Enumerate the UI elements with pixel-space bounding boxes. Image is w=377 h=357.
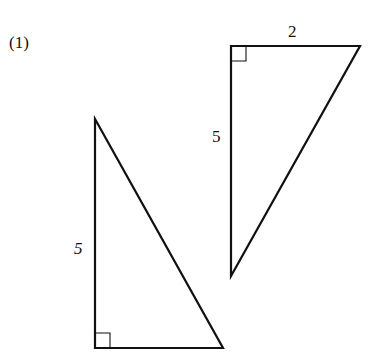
triangle-bottom-left xyxy=(95,119,223,348)
top-triangle-vertical-leg-label: 5 xyxy=(212,128,221,145)
top-triangle-horizontal-leg-label: 2 xyxy=(288,23,297,40)
triangle-top-right xyxy=(231,46,360,276)
right-angle-marker-icon xyxy=(231,46,246,61)
bottom-triangle-vertical-leg-label: 5 xyxy=(74,240,83,257)
triangles-figure xyxy=(0,0,377,357)
diagram-canvas: (1) 2 5 5 xyxy=(0,0,377,357)
right-angle-marker-icon xyxy=(95,333,110,348)
